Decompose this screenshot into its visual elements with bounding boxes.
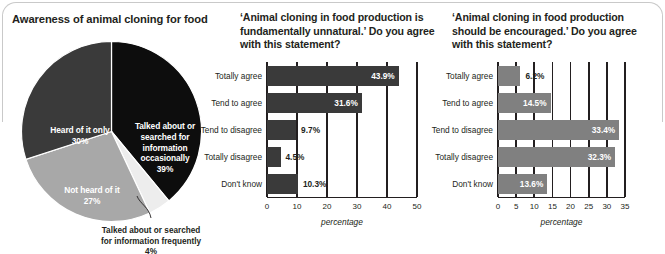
gridline — [624, 62, 626, 197]
bar-value-label: 10.3% — [303, 179, 327, 189]
bar-value-label: 32.3% — [588, 152, 612, 162]
bar-category-label: Totally agree — [446, 71, 493, 81]
x-axis-title: percentage — [267, 217, 417, 227]
bar-chart-panel-unnatural: ‘Animal cloning in food production is fu… — [228, 0, 440, 254]
bar-value-label: 14.5% — [523, 98, 547, 108]
bar-category-label: Tend to disagree — [201, 125, 262, 135]
x-tick-label: 25 — [584, 202, 593, 211]
pie-slice-label-line: information — [143, 143, 188, 153]
pie-slice-label-line: searched for — [140, 132, 189, 142]
bar-value-label: 13.6% — [520, 179, 544, 189]
x-tick-label: 20 — [566, 202, 575, 211]
x-tick-label: 40 — [383, 202, 392, 211]
pie-chart-graphic: Talked about orsearched forinformationoc… — [21, 41, 202, 222]
bar-value-label: 6.2% — [525, 71, 544, 81]
bar-value-label: 33.4% — [592, 125, 616, 135]
bar-category-label: Tend to agree — [442, 98, 493, 108]
x-tick-label: 50 — [413, 202, 422, 211]
bar-category-label: Tend to agree — [211, 98, 262, 108]
pie-chart-panel: Awareness of animal cloning for food Tal… — [0, 0, 228, 254]
x-axis-line — [498, 197, 625, 198]
pie-callout-text-line2: for information frequently — [101, 237, 201, 246]
figure-root: Awareness of animal cloning for food Tal… — [0, 0, 665, 254]
pie-slice-label-line: 39% — [157, 164, 173, 174]
x-tick-label: 10 — [293, 202, 302, 211]
bar-value-label: 43.9% — [371, 71, 395, 81]
bar-value-label: 9.7% — [301, 125, 320, 135]
pie-slice-label-line: 30% — [72, 136, 88, 146]
pie-slice-label-heard-only: Heard of it only30% — [45, 125, 115, 147]
bar-value-label: 31.6% — [334, 98, 358, 108]
bar — [498, 66, 520, 86]
pie-callout-text-pct: 4% — [145, 247, 157, 254]
x-axis-title: percentage — [498, 217, 625, 227]
x-tick-label: 0 — [265, 202, 269, 211]
x-tick-label: 15 — [548, 202, 557, 211]
pie-callout-label: Talked about or searched for information… — [82, 226, 220, 254]
bar-category-label: Tend to disagree — [432, 125, 493, 135]
pie-slice-label-not-heard: Not heard of it27% — [59, 185, 125, 207]
pie-callout-text-line1: Talked about or searched — [102, 226, 201, 235]
bar-category-label: Totally disagree — [435, 152, 493, 162]
bar — [267, 120, 296, 140]
bar-category-label: Don't know — [221, 179, 262, 189]
x-tick-label: 5 — [514, 202, 518, 211]
x-tick-label: 10 — [530, 202, 539, 211]
pie-chart-title: Awareness of animal cloning for food — [12, 12, 224, 26]
pie-slice-label-line: Not heard of it — [64, 185, 119, 195]
bar-value-label: 4.5% — [286, 152, 305, 162]
pie-slice-label-occasional: Talked about orsearched forinformationoc… — [129, 121, 201, 175]
pie-slice-label-line: Heard of it only — [50, 125, 109, 135]
gridline — [416, 62, 418, 197]
bar — [267, 174, 298, 194]
x-tick-label: 35 — [621, 202, 630, 211]
pie-slice-label-line: 27% — [84, 196, 100, 206]
bar-category-label: Totally agree — [215, 71, 262, 81]
x-tick-label: 30 — [602, 202, 611, 211]
bar-category-label: Totally disagree — [204, 152, 262, 162]
bar-chart-panel-encouraged: ‘Animal cloning in food production shoul… — [440, 0, 665, 254]
x-axis-line — [267, 197, 417, 198]
bar-plot-unnatural: Totally agree43.9%Tend to agree31.6%Tend… — [228, 0, 440, 254]
x-tick-label: 0 — [496, 202, 500, 211]
bar-plot-encouraged: Totally agree6.2%Tend to agree14.5%Tend … — [440, 0, 665, 254]
bar — [267, 147, 281, 167]
x-tick-label: 30 — [353, 202, 362, 211]
x-tick-label: 20 — [323, 202, 332, 211]
bar-category-label: Don't know — [452, 179, 493, 189]
pie-slice-label-line: Talked about or — [135, 121, 195, 131]
pie-slice-label-line: occasionally — [140, 153, 189, 163]
